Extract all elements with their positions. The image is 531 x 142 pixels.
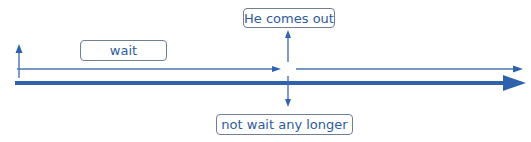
wait-label: wait [80, 40, 167, 61]
result-label: not wait any longer [216, 114, 353, 135]
timeline-diagram: wait He comes out not wait any longer [0, 0, 531, 142]
event-label: He comes out [243, 8, 335, 28]
event-down-arrow-icon [285, 76, 291, 107]
after-event-line [296, 66, 523, 73]
start-up-arrow-icon [16, 44, 23, 78]
event-up-arrow-icon [285, 30, 291, 62]
main-timeline-arrow [15, 75, 526, 91]
wait-period-line [17, 66, 281, 72]
